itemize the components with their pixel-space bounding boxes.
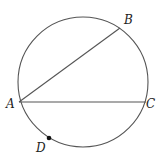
label-a: A — [5, 97, 15, 111]
label-c: C — [146, 97, 155, 111]
label-d: D — [35, 141, 46, 155]
label-b: B — [123, 13, 133, 27]
point-d-marker — [47, 136, 52, 141]
geometry-diagram: A B C D — [0, 0, 165, 158]
circle — [18, 17, 148, 147]
diagram-canvas: A B C D — [0, 0, 165, 158]
